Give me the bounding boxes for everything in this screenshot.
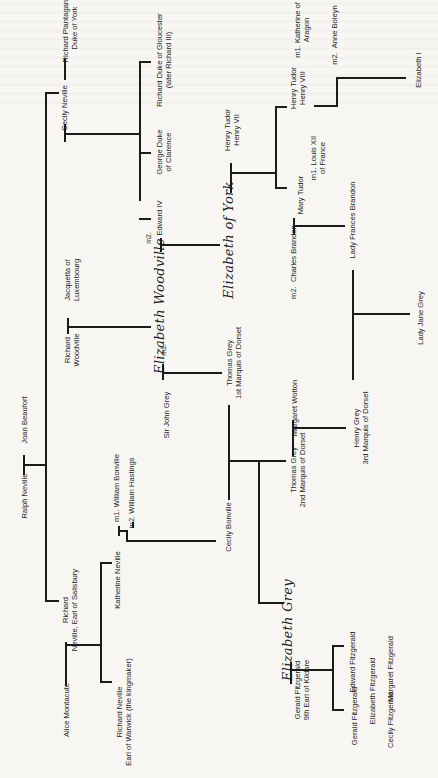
person-george-clarence: George Duke of Clarence xyxy=(155,129,173,174)
connector xyxy=(162,372,222,374)
connector xyxy=(139,61,151,63)
connector xyxy=(45,600,59,602)
person-lady-jane-grey: Lady Jane Grey xyxy=(416,291,425,345)
connector xyxy=(275,187,287,189)
children-trunk xyxy=(332,645,334,710)
person-anne-boleyn: m2. Anne Boleyn xyxy=(330,5,339,65)
connector xyxy=(139,152,151,154)
connector xyxy=(293,225,345,227)
connector xyxy=(45,92,59,94)
person-edward-iv: Edward IV xyxy=(155,200,164,235)
marriage-bar xyxy=(292,420,294,456)
person-louis-xii: m1. Louis XII of France xyxy=(309,136,327,180)
person-thomas-grey-1st: Thomas Grey 1st Marquis of Dorset xyxy=(225,327,243,399)
connector xyxy=(126,540,216,542)
connector xyxy=(336,77,338,107)
children-trunk xyxy=(139,61,141,201)
person-alice-montacute: Alice Montacute xyxy=(62,683,71,737)
marriage-m1: m1. xyxy=(159,344,168,356)
person-richard-woodville: Richard Woodville xyxy=(63,334,81,367)
person-cecily-bonville: Cecily Bonville xyxy=(224,502,233,551)
connector xyxy=(64,133,140,135)
connector xyxy=(65,644,101,646)
connector xyxy=(230,172,276,174)
connector xyxy=(292,427,346,429)
marriage-bar xyxy=(64,124,66,142)
connector xyxy=(332,709,344,711)
person-mary-tudor: Mary Tudor xyxy=(296,176,305,214)
connector xyxy=(139,218,151,220)
person-henry-viii: Henry Tudor Henry VIII xyxy=(289,67,307,109)
children-trunk xyxy=(100,562,102,682)
connector xyxy=(228,460,286,462)
connector xyxy=(100,681,112,683)
connector xyxy=(67,326,151,328)
person-richard-warwick: Richard Neville Earl of Warwick (the kin… xyxy=(115,658,133,765)
children-trunk xyxy=(228,405,230,500)
person-richard-iii: Richard Duke of Gloucester (later Richar… xyxy=(155,13,173,106)
person-william-bonville: m1. William Bonville xyxy=(112,454,121,522)
connector xyxy=(332,645,344,647)
marriage-bar xyxy=(132,522,134,528)
person-gerald-9th: Gerald Fitzgerald 9th Earl of Kildare xyxy=(293,660,311,720)
connector xyxy=(160,244,220,246)
connector xyxy=(100,562,112,564)
person-elizabeth-of-york: Elizabeth of York xyxy=(222,181,236,298)
person-katherine-neville: Katherine Neville xyxy=(113,551,122,608)
marriage-bar xyxy=(230,163,232,193)
person-cecily-fitzgerald: Cecily Fitzgerald xyxy=(386,692,395,748)
person-richard-salisbury: Richard Neville, Earl of Salisbury xyxy=(61,569,79,651)
connector xyxy=(118,530,126,532)
person-richard-plantagenet: Richard Plantaganet Duke of York xyxy=(61,0,79,62)
person-elizabeth-fitzgerald: Elizabeth Fitzgerald xyxy=(368,658,377,725)
connector xyxy=(352,313,410,315)
person-edward-fitzgerald: Edward Fitzgerald xyxy=(348,631,357,692)
person-henry-grey: Henry Grey 3rd Marquis of Dorset xyxy=(352,391,370,464)
connector xyxy=(23,464,46,466)
person-elizabeth-i: Elizabeth I xyxy=(414,52,423,87)
person-gerald-fitzgerald: Gerald Fitzgerald xyxy=(350,687,359,745)
marriage-m2: m2. xyxy=(144,232,153,244)
person-henry-vii: Henry Tudor Henry VII xyxy=(223,109,241,151)
person-sir-john-grey: Sir John Grey xyxy=(162,392,171,438)
person-katherine-of-aragon: m1. Katherine of Aragon xyxy=(293,2,311,58)
person-frances-brandon: Lady Frances Brandon xyxy=(348,182,357,259)
children-trunk xyxy=(275,106,277,188)
person-ralph-neville: Ralph Neville xyxy=(20,474,29,519)
marriage-bar xyxy=(290,662,292,684)
person-charles-brandon: m2. Charles Brandon xyxy=(289,225,298,299)
marriage-bar xyxy=(65,642,67,686)
marriage-bar xyxy=(64,58,66,80)
connector xyxy=(258,460,260,603)
children-trunk xyxy=(45,92,47,602)
connector xyxy=(336,77,406,79)
connector xyxy=(352,270,354,380)
connector xyxy=(314,105,336,107)
person-joan-beaufort: Joan Beaufort xyxy=(20,396,29,443)
person-jacquetta: Jacquetta of Luxembourg xyxy=(63,259,81,301)
person-william-hastings: m2. William Hastings xyxy=(127,458,136,529)
connector xyxy=(275,106,287,108)
